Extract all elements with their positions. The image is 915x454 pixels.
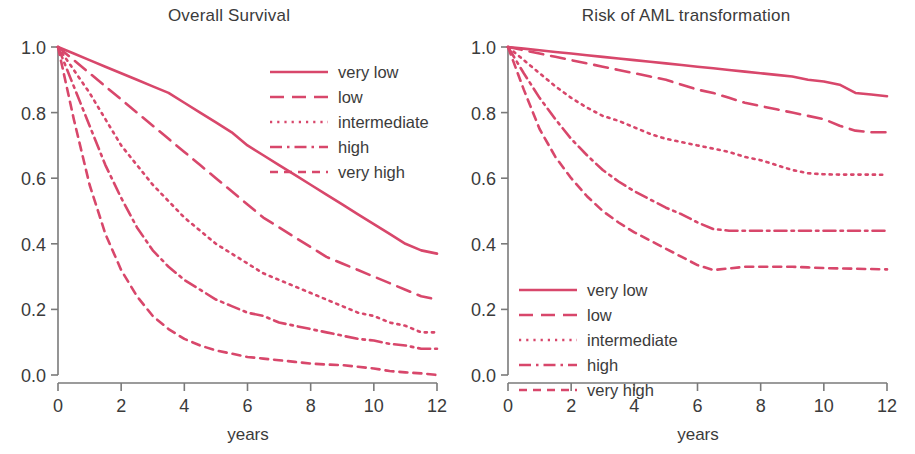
axes-group [508,47,887,383]
legend-group: very lowlowintermediatehighvery high [519,281,678,399]
y-tick-label: 0.2 [21,300,46,320]
chart-svg-risk-aml: 0.00.20.40.60.81.0 024681012 very lowlow… [457,0,915,454]
y-tick-label: 0.0 [471,366,496,386]
x-tick-label: 8 [756,396,766,416]
legend-label-very-low: very low [338,63,399,81]
y-tick-label: 0.6 [471,169,496,189]
y-tick-label: 0.8 [471,104,496,124]
y-tick-label: 0.4 [471,235,496,255]
x-tick-label: 10 [364,396,384,416]
y-ticks-group: 0.00.20.40.60.81.0 [21,38,58,386]
series-group [58,47,437,375]
x-tick-label: 2 [566,396,576,416]
series-line-very-high [58,47,437,375]
legend-label-very-high: very high [587,381,654,399]
y-tick-label: 0.6 [21,169,46,189]
series-group [508,47,887,270]
x-tick-label: 12 [427,396,447,416]
x-axis-label: years [677,425,719,444]
x-tick-label: 8 [306,396,316,416]
y-tick-label: 0.4 [21,235,46,255]
series-line-low [508,47,887,132]
series-line-high [508,47,887,231]
axes-group [58,47,437,383]
panel-risk-aml-transformation: Risk of AML transformation 0.00.20.40.60… [457,0,915,454]
x-tick-label: 10 [814,396,834,416]
x-tick-label: 6 [692,396,702,416]
series-line-high [58,47,437,349]
panel-overall-survival: Overall Survival 0.00.20.40.60.81.0 0246… [0,0,458,454]
x-tick-label: 6 [242,396,252,416]
legend-label-high: high [338,138,369,156]
series-line-very-low [508,47,887,96]
series-line-intermediate [58,47,437,332]
legend-group: very lowlowintermediatehighvery high [270,63,429,181]
legend-label-high: high [587,356,618,374]
y-ticks-group: 0.00.20.40.60.81.0 [471,38,508,386]
y-tick-label: 0.0 [21,366,46,386]
x-tick-label: 4 [179,396,189,416]
legend-label-very-low: very low [587,281,648,299]
y-tick-label: 1.0 [471,38,496,58]
legend-label-very-high: very high [338,163,405,181]
x-tick-label: 2 [116,396,126,416]
legend-label-low: low [587,306,612,324]
x-tick-label: 12 [877,396,897,416]
figure-two-panel-survival-plots: Overall Survival 0.00.20.40.60.81.0 0246… [0,0,915,454]
x-ticks-group: 024681012 [53,383,447,416]
legend-label-intermediate: intermediate [587,331,678,349]
x-tick-label: 0 [53,396,63,416]
y-tick-label: 0.8 [21,104,46,124]
chart-svg-overall-survival: 0.00.20.40.60.81.0 024681012 very lowlow… [0,0,458,454]
legend-label-low: low [338,88,363,106]
x-axis-label: years [227,425,269,444]
legend-label-intermediate: intermediate [338,113,429,131]
x-tick-label: 0 [503,396,513,416]
x-tick-label: 4 [629,396,639,416]
y-tick-label: 1.0 [21,38,46,58]
y-tick-label: 0.2 [471,300,496,320]
series-line-very-high [508,47,887,270]
x-ticks-group: 024681012 [503,383,897,416]
